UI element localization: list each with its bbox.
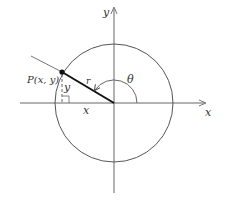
terminal-ray [31, 56, 62, 72]
point-label: P(x, y) [26, 74, 59, 85]
polar-diagram: y x P(x, y) r θ x y [0, 0, 229, 202]
horizontal-leg-label: x [83, 104, 90, 117]
point-p [59, 69, 64, 74]
theta-label: θ [127, 73, 134, 86]
y-axis-label: y [102, 6, 110, 19]
right-angle-marker [62, 96, 69, 103]
radius-label: r [86, 76, 91, 86]
x-axis-label: x [205, 106, 212, 119]
vertical-leg-label: y [63, 81, 71, 94]
